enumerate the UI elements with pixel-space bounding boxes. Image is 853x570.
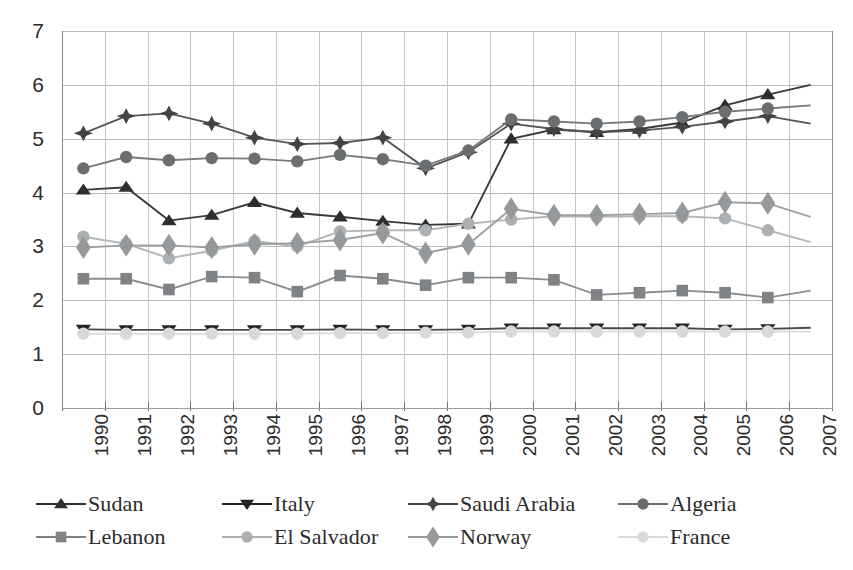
data-point <box>633 115 645 127</box>
legend-item-france[interactable]: France <box>616 522 730 552</box>
data-point <box>418 241 433 264</box>
legend-row-bottom: LebanonEl SalvadorNorwayFrance <box>34 522 824 552</box>
data-point <box>719 287 731 299</box>
data-point <box>120 151 132 163</box>
legend-marker-triangle-up-icon <box>34 491 88 517</box>
data-point <box>247 196 262 207</box>
series-line <box>83 328 810 330</box>
data-point <box>547 204 562 227</box>
data-point <box>419 224 431 236</box>
data-point <box>377 273 389 285</box>
legend-item-algeria[interactable]: Algeria <box>616 489 737 519</box>
data-point <box>206 152 218 164</box>
data-point <box>462 144 474 156</box>
data-point <box>249 272 261 284</box>
legend-item-norway[interactable]: Norway <box>406 522 531 552</box>
data-point <box>462 218 474 230</box>
legend-marker-square-icon <box>34 524 88 550</box>
data-point <box>419 159 431 171</box>
data-point <box>334 327 346 339</box>
data-point <box>548 115 560 127</box>
legend-item-el-salvador[interactable]: El Salvador <box>220 522 378 552</box>
legend-marker-star-plus-icon <box>406 491 460 517</box>
series-line <box>83 276 810 298</box>
data-point <box>676 325 688 337</box>
legend-label: France <box>670 524 730 550</box>
data-point <box>762 102 774 114</box>
data-point <box>334 149 346 161</box>
data-point <box>719 212 731 224</box>
legend-label: Saudi Arabia <box>460 491 575 517</box>
legend-row-top: SudanItalySaudi ArabiaAlgeria <box>34 489 824 519</box>
data-point <box>119 181 134 192</box>
data-point <box>77 327 89 339</box>
data-point <box>288 136 307 152</box>
legend-marker-circle-icon <box>220 524 274 550</box>
data-point <box>248 152 260 164</box>
data-point <box>548 274 560 286</box>
data-point <box>202 116 221 132</box>
data-point <box>159 106 178 122</box>
data-point <box>463 272 475 284</box>
legend-marker-diamond-icon <box>406 524 460 550</box>
series-france <box>77 325 810 340</box>
data-point <box>762 325 774 337</box>
data-point <box>120 327 132 339</box>
data-point <box>334 270 346 282</box>
data-point <box>163 284 175 296</box>
series-line <box>83 332 810 334</box>
data-point <box>589 204 604 227</box>
data-point <box>675 202 690 225</box>
legend-marker-circle-icon <box>616 491 670 517</box>
data-point <box>330 135 349 151</box>
data-point <box>420 279 432 291</box>
data-point <box>162 234 177 257</box>
data-point <box>78 273 90 285</box>
legend-marker-triangle-down-icon <box>220 491 274 517</box>
chart-legend: SudanItalySaudi ArabiaAlgeria LebanonEl … <box>34 489 824 555</box>
legend-marker-circle-icon <box>616 524 670 550</box>
legend-item-lebanon[interactable]: Lebanon <box>34 522 166 552</box>
legend-label: Lebanon <box>88 524 166 550</box>
data-point <box>676 111 688 123</box>
data-point <box>291 286 303 298</box>
data-point <box>206 327 218 339</box>
series-line <box>83 85 810 225</box>
legend-label: Italy <box>274 491 315 517</box>
data-point <box>163 154 175 166</box>
data-point <box>245 130 264 146</box>
legend-label: Algeria <box>670 491 737 517</box>
data-point <box>248 327 260 339</box>
data-point <box>719 106 731 118</box>
data-point <box>462 326 474 338</box>
series-line <box>83 113 810 168</box>
data-point <box>591 289 603 301</box>
data-point <box>634 287 646 299</box>
data-point <box>291 155 303 167</box>
data-point <box>206 271 218 283</box>
data-point <box>204 236 219 259</box>
data-point <box>505 272 517 284</box>
data-point <box>676 285 688 297</box>
data-point <box>505 325 517 337</box>
data-point <box>718 191 733 214</box>
legend-item-italy[interactable]: Italy <box>220 489 315 519</box>
series-plot-area <box>0 0 853 570</box>
data-point <box>291 327 303 339</box>
series-line <box>83 216 810 258</box>
data-point <box>377 327 389 339</box>
series-lebanon <box>78 270 811 304</box>
data-point <box>77 162 89 174</box>
legend-item-saudi-arabia[interactable]: Saudi Arabia <box>406 489 575 519</box>
data-point <box>119 234 134 257</box>
data-point <box>632 203 647 226</box>
data-point <box>74 125 93 141</box>
legend-item-sudan[interactable]: Sudan <box>34 489 144 519</box>
legend-label: El Salvador <box>274 524 378 550</box>
data-point <box>377 153 389 165</box>
data-point <box>762 292 774 304</box>
data-point <box>591 117 603 129</box>
data-point <box>719 325 731 337</box>
chart-page: 01234567 1990199119921993199419951996199… <box>0 0 853 570</box>
series-line <box>83 105 810 168</box>
